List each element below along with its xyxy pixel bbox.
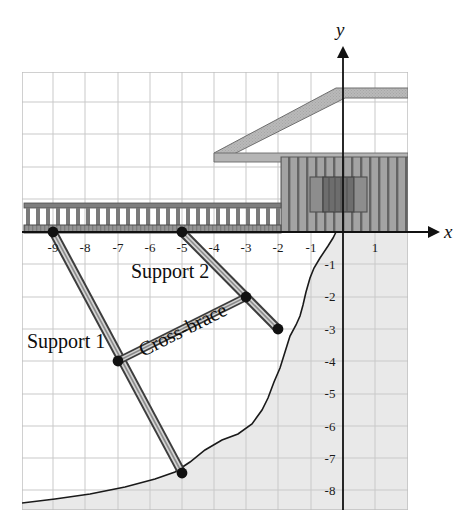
y-tick--7: -7 [325, 451, 336, 466]
y-tick--5: -5 [325, 386, 336, 401]
y-tick--6: -6 [325, 419, 336, 434]
x-tick--5: -5 [177, 240, 188, 255]
figure-canvas: x y -9 -8 -7 -6 -5 -4 -3 -2 -1 1 -1 -2 -… [0, 0, 471, 528]
coordinate-diagram-svg: x y -9 -8 -7 -6 -5 -4 -3 -2 -1 1 -1 -2 -… [0, 0, 471, 528]
x-tick--6: -6 [145, 240, 156, 255]
point-neg2-neg3 [273, 324, 284, 335]
x-axis-label: x [443, 221, 453, 242]
window-shutter-right [354, 177, 367, 212]
support-2-label: Support 2 [131, 260, 209, 283]
x-tick--1: -1 [306, 240, 317, 255]
deck-railing-top [24, 203, 281, 208]
y-tick--4: -4 [325, 354, 336, 369]
x-tick--4: -4 [209, 240, 220, 255]
support-1-label: Support 1 [27, 330, 105, 353]
x-tick--2: -2 [273, 240, 284, 255]
y-tick--1: -1 [325, 257, 336, 272]
y-tick--2: -2 [325, 289, 336, 304]
x-tick--3: -3 [241, 240, 252, 255]
point-neg5-neg8 [177, 468, 188, 479]
window-shutter-left [310, 177, 323, 212]
x-tick--7: -7 [113, 240, 124, 255]
y-tick--8: -8 [325, 483, 336, 498]
x-tick--9: -9 [48, 240, 59, 255]
point-neg7-neg4 [113, 356, 124, 367]
y-tick--3: -3 [325, 322, 336, 337]
x-tick-1: 1 [372, 240, 379, 255]
point-neg3-neg2 [241, 292, 252, 303]
x-tick--8: -8 [80, 240, 91, 255]
window-glass [323, 177, 354, 212]
y-axis-label: y [334, 19, 345, 40]
